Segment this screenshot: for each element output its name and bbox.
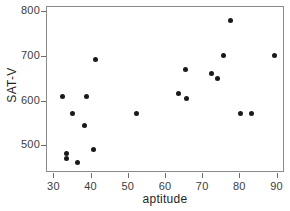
x-tick-mark: [239, 173, 240, 178]
data-point: [184, 96, 189, 101]
data-point: [64, 151, 69, 156]
data-point: [183, 67, 188, 72]
x-tick-label: 80: [224, 180, 254, 192]
y-tick-mark: [41, 101, 46, 102]
x-tick-label: 90: [262, 180, 290, 192]
x-tick-label: 40: [76, 180, 106, 192]
plot-area: [46, 6, 284, 172]
data-point: [93, 57, 98, 62]
scatter-plot-figure: 500600700800 30405060708090 SAT-V aptitu…: [0, 0, 290, 211]
x-tick-label: 50: [113, 180, 143, 192]
x-tick-label: 70: [187, 180, 217, 192]
x-tick-mark: [53, 173, 54, 178]
y-tick-mark: [41, 145, 46, 146]
y-tick-label: 500: [0, 138, 40, 150]
y-tick-mark: [41, 11, 46, 12]
x-tick-mark: [91, 173, 92, 178]
y-axis-title: SAT-V: [5, 50, 19, 120]
data-point: [75, 160, 80, 165]
x-tick-mark: [277, 173, 278, 178]
x-tick-mark: [202, 173, 203, 178]
x-tick-label: 60: [150, 180, 180, 192]
y-tick-label: 800: [0, 4, 40, 16]
data-point: [215, 76, 220, 81]
data-point: [70, 111, 75, 116]
x-tick-mark: [128, 173, 129, 178]
data-point: [60, 94, 65, 99]
data-point: [82, 123, 87, 128]
x-axis-title: aptitude: [46, 192, 284, 206]
data-point: [228, 18, 233, 23]
x-tick-label: 30: [38, 180, 68, 192]
y-tick-mark: [41, 56, 46, 57]
x-tick-mark: [165, 173, 166, 178]
